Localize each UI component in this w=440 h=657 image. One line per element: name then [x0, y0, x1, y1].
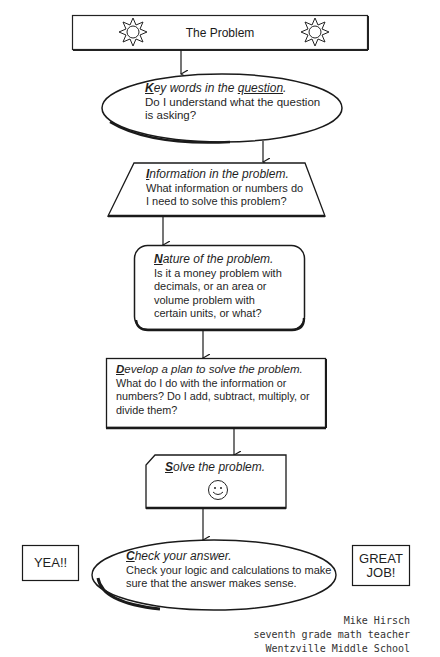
solve-text: Solve the problem.	[165, 461, 285, 475]
information-text: Information in the problem. What informa…	[146, 168, 316, 209]
information-line: What information or numbers do	[146, 182, 316, 196]
author-title: seventh grade math teacher	[253, 628, 410, 642]
yea-label: YEA!!	[22, 545, 79, 581]
develop-line: What do I do with the information or	[116, 377, 326, 391]
author-credit: Mike Hirsch seventh grade math teacher W…	[253, 614, 410, 656]
author-school: Wentzville Middle School	[253, 642, 410, 656]
nature-heading: Nature of the problem.	[154, 253, 302, 267]
check-text: Check your answer. Check your logic and …	[126, 550, 336, 591]
information-heading: Information in the problem.	[146, 168, 316, 182]
check-heading: Check your answer.	[126, 550, 336, 564]
nature-line: certain units, or what?	[154, 307, 302, 321]
develop-text: Develop a plan to solve the problem. Wha…	[116, 363, 326, 417]
author-name: Mike Hirsch	[253, 614, 410, 628]
nature-text: Nature of the problem. Is it a money pro…	[154, 253, 302, 321]
nature-line: volume problem with	[154, 294, 302, 308]
nature-line: decimals, or an area or	[154, 280, 302, 294]
develop-line: numbers? Do I add, subtract, multiply, o…	[116, 390, 326, 404]
key-words-heading: Key words in the question.	[145, 82, 335, 96]
check-line: Check your logic and calculations to mak…	[126, 564, 336, 578]
start-label: The Problem	[72, 15, 368, 50]
key-words-line: is asking?	[145, 109, 335, 123]
key-words-line: Do I understand what the question	[145, 96, 335, 110]
check-line: sure that the answer makes sense.	[126, 577, 336, 591]
develop-heading: Develop a plan to solve the problem.	[116, 363, 326, 377]
information-line: I need to solve this problem?	[146, 195, 316, 209]
key-words-text: Key words in the question. Do I understa…	[145, 82, 335, 123]
solve-heading: Solve the problem.	[165, 461, 285, 475]
great-job-label: GREAT JOB!	[352, 545, 410, 586]
nature-line: Is it a money problem with	[154, 267, 302, 281]
develop-line: divide them?	[116, 404, 326, 418]
